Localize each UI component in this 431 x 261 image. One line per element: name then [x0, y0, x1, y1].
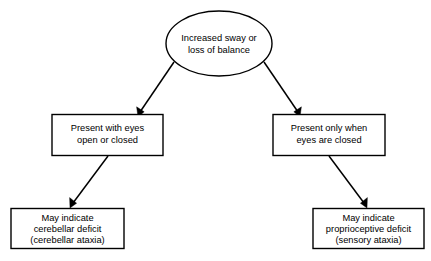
flowchart-canvas: Increased sway or loss of balance Presen…	[0, 0, 431, 261]
root-ellipse-shape	[166, 11, 272, 76]
edge-root-to-branch-right	[264, 62, 301, 117]
branch-right-label-line-1: Present only when	[291, 123, 368, 133]
branch-right-label-line-2: eyes are closed	[296, 135, 361, 145]
node-root: Increased sway or loss of balance	[166, 11, 272, 76]
edge-branch-right-to-outcome-right	[329, 156, 367, 208]
branch-left-label-line-1: Present with eyes	[71, 123, 145, 133]
flowchart-diagram: Increased sway or loss of balance Presen…	[0, 0, 431, 261]
edge-line-branch-left-outcome-left	[73, 156, 108, 203]
outcome-left-label-line-1: May indicate	[41, 213, 93, 223]
root-label-line-2: loss of balance	[188, 45, 250, 55]
edge-root-to-branch-left	[137, 62, 174, 117]
outcome-left-label-line-2: cerebellar deficit	[34, 224, 102, 234]
outcome-right-label-line-3: (sensory ataxia)	[335, 235, 401, 245]
node-branch-right: Present only when eyes are closed	[273, 115, 385, 156]
outcome-right-label-line-2: proprioceptive deficit	[326, 224, 412, 234]
outcome-left-label-line-3: (cerebellar ataxia)	[30, 235, 104, 245]
edge-line-branch-right-outcome-right	[329, 156, 364, 203]
edge-line-root-branch-right	[264, 62, 298, 112]
outcome-right-label-line-1: May indicate	[342, 213, 394, 223]
edge-branch-left-to-outcome-left	[70, 156, 108, 208]
node-branch-left: Present with eyes open or closed	[52, 115, 163, 156]
root-label-line-1: Increased sway or	[181, 33, 256, 43]
node-outcome-left: May indicate cerebellar deficit (cerebel…	[11, 209, 124, 249]
edge-line-root-branch-left	[140, 62, 174, 112]
node-outcome-right: May indicate proprioceptive deficit (sen…	[313, 209, 424, 249]
branch-left-label-line-2: open or closed	[77, 135, 138, 145]
